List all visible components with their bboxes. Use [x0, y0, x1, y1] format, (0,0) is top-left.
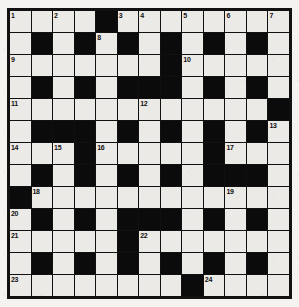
grid-letter-cell[interactable] [118, 275, 139, 296]
grid-letter-cell[interactable]: 4 [139, 11, 160, 32]
grid-letter-cell[interactable] [53, 77, 74, 98]
grid-letter-cell[interactable] [118, 99, 139, 120]
grid-letter-cell[interactable] [182, 165, 203, 186]
grid-letter-cell[interactable] [268, 143, 289, 164]
grid-letter-cell[interactable] [182, 209, 203, 230]
grid-letter-cell[interactable] [161, 187, 182, 208]
grid-letter-cell[interactable] [247, 231, 268, 252]
grid-letter-cell[interactable] [247, 275, 268, 296]
grid-letter-cell[interactable] [182, 99, 203, 120]
grid-letter-cell[interactable] [247, 143, 268, 164]
grid-letter-cell[interactable] [182, 187, 203, 208]
grid-letter-cell[interactable] [268, 165, 289, 186]
grid-letter-cell[interactable] [225, 99, 246, 120]
grid-letter-cell[interactable] [225, 275, 246, 296]
grid-letter-cell[interactable] [53, 165, 74, 186]
grid-letter-cell[interactable] [204, 187, 225, 208]
grid-letter-cell[interactable] [225, 209, 246, 230]
grid-letter-cell[interactable]: 14 [10, 143, 31, 164]
grid-letter-cell[interactable] [96, 55, 117, 76]
grid-letter-cell[interactable] [225, 121, 246, 142]
grid-letter-cell[interactable] [268, 231, 289, 252]
grid-letter-cell[interactable] [204, 99, 225, 120]
grid-letter-cell[interactable] [96, 99, 117, 120]
grid-letter-cell[interactable] [247, 55, 268, 76]
grid-letter-cell[interactable] [32, 275, 53, 296]
grid-letter-cell[interactable]: 22 [139, 231, 160, 252]
grid-letter-cell[interactable] [161, 99, 182, 120]
grid-letter-cell[interactable] [139, 121, 160, 142]
grid-letter-cell[interactable] [32, 11, 53, 32]
grid-letter-cell[interactable]: 5 [182, 11, 203, 32]
grid-letter-cell[interactable]: 2 [53, 11, 74, 32]
grid-letter-cell[interactable] [182, 143, 203, 164]
grid-letter-cell[interactable] [161, 143, 182, 164]
grid-letter-cell[interactable] [32, 99, 53, 120]
grid-letter-cell[interactable]: 3 [118, 11, 139, 32]
grid-letter-cell[interactable] [75, 55, 96, 76]
grid-letter-cell[interactable]: 6 [225, 11, 246, 32]
grid-letter-cell[interactable] [96, 209, 117, 230]
grid-letter-cell[interactable] [268, 253, 289, 274]
grid-letter-cell[interactable] [268, 187, 289, 208]
grid-letter-cell[interactable]: 10 [182, 55, 203, 76]
grid-letter-cell[interactable] [75, 231, 96, 252]
grid-letter-cell[interactable]: 7 [268, 11, 289, 32]
grid-letter-cell[interactable]: 16 [96, 143, 117, 164]
grid-letter-cell[interactable] [139, 55, 160, 76]
grid-letter-cell[interactable] [96, 121, 117, 142]
grid-letter-cell[interactable] [204, 55, 225, 76]
grid-letter-cell[interactable] [32, 55, 53, 76]
grid-letter-cell[interactable] [53, 55, 74, 76]
grid-letter-cell[interactable] [225, 33, 246, 54]
grid-letter-cell[interactable] [247, 187, 268, 208]
grid-letter-cell[interactable] [225, 231, 246, 252]
grid-letter-cell[interactable]: 19 [225, 187, 246, 208]
grid-letter-cell[interactable]: 1 [10, 11, 31, 32]
grid-letter-cell[interactable]: 21 [10, 231, 31, 252]
grid-letter-cell[interactable] [139, 187, 160, 208]
grid-letter-cell[interactable] [268, 33, 289, 54]
grid-letter-cell[interactable] [96, 77, 117, 98]
grid-letter-cell[interactable] [139, 275, 160, 296]
grid-letter-cell[interactable] [53, 231, 74, 252]
grid-letter-cell[interactable] [10, 165, 31, 186]
grid-letter-cell[interactable] [10, 77, 31, 98]
grid-letter-cell[interactable] [96, 231, 117, 252]
grid-letter-cell[interactable]: 17 [225, 143, 246, 164]
grid-letter-cell[interactable]: 8 [96, 33, 117, 54]
grid-letter-cell[interactable]: 12 [139, 99, 160, 120]
grid-letter-cell[interactable] [53, 253, 74, 274]
grid-letter-cell[interactable] [53, 99, 74, 120]
grid-letter-cell[interactable] [118, 143, 139, 164]
grid-letter-cell[interactable] [204, 11, 225, 32]
grid-letter-cell[interactable] [53, 209, 74, 230]
grid-letter-cell[interactable] [268, 77, 289, 98]
grid-letter-cell[interactable] [118, 55, 139, 76]
grid-letter-cell[interactable] [75, 275, 96, 296]
grid-letter-cell[interactable] [247, 11, 268, 32]
grid-letter-cell[interactable] [139, 253, 160, 274]
grid-letter-cell[interactable] [75, 99, 96, 120]
grid-letter-cell[interactable] [161, 231, 182, 252]
grid-letter-cell[interactable] [10, 33, 31, 54]
grid-letter-cell[interactable] [182, 231, 203, 252]
grid-letter-cell[interactable]: 11 [10, 99, 31, 120]
grid-letter-cell[interactable]: 9 [10, 55, 31, 76]
grid-letter-cell[interactable] [10, 121, 31, 142]
grid-letter-cell[interactable] [225, 77, 246, 98]
grid-letter-cell[interactable] [225, 55, 246, 76]
grid-letter-cell[interactable] [182, 77, 203, 98]
grid-letter-cell[interactable] [96, 187, 117, 208]
grid-letter-cell[interactable] [96, 253, 117, 274]
grid-letter-cell[interactable] [268, 55, 289, 76]
grid-letter-cell[interactable] [139, 33, 160, 54]
grid-letter-cell[interactable] [96, 165, 117, 186]
grid-letter-cell[interactable] [53, 275, 74, 296]
grid-letter-cell[interactable] [161, 11, 182, 32]
grid-letter-cell[interactable] [10, 253, 31, 274]
grid-letter-cell[interactable] [225, 253, 246, 274]
grid-letter-cell[interactable] [53, 33, 74, 54]
grid-letter-cell[interactable] [118, 187, 139, 208]
grid-letter-cell[interactable] [96, 275, 117, 296]
